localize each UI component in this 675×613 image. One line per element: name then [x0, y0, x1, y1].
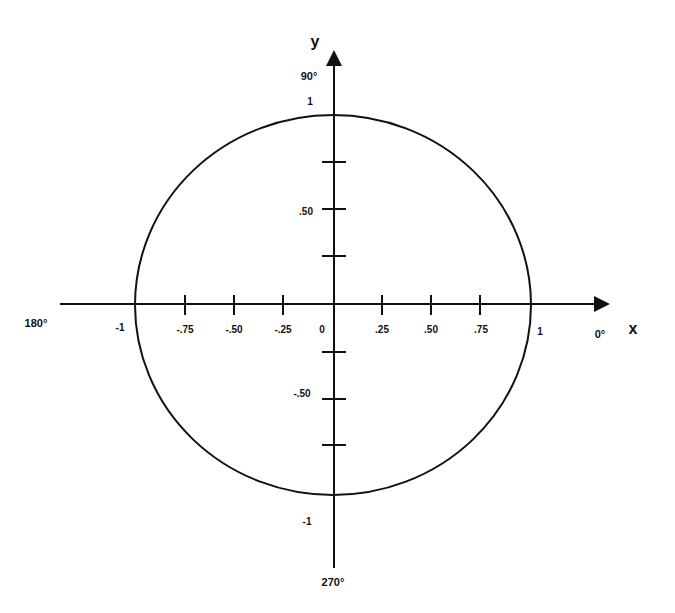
degree-label-270: 270° — [322, 576, 345, 588]
y-tick-label: .50 — [299, 206, 313, 217]
x-tick-label: 1 — [537, 326, 543, 337]
x-tick-label: .50 — [424, 324, 438, 335]
degree-label-90: 90° — [301, 70, 318, 82]
x-axis-arrow-icon — [594, 296, 610, 312]
x-tick-label: 0 — [319, 324, 325, 335]
y-axis-arrow-icon — [326, 50, 342, 66]
degree-label-180: 180° — [25, 317, 48, 329]
x-axis-name: x — [629, 320, 638, 337]
x-tick-label: .25 — [375, 324, 389, 335]
x-tick-label: .75 — [474, 324, 488, 335]
x-tick-label: -.50 — [225, 324, 243, 335]
y-tick-label: 1 — [307, 96, 313, 107]
y-tick-label: -1 — [303, 516, 312, 527]
x-tick-label: -1 — [116, 322, 125, 333]
y-tick-label: -.50 — [293, 388, 311, 399]
unit-circle-diagram: -1 -.75 -.50 -.25 0 .25 .50 .75 1 1 .50 … — [0, 0, 675, 613]
degree-label-0: 0° — [595, 328, 606, 340]
x-tick-label: -.25 — [274, 324, 292, 335]
x-tick-label: -.75 — [176, 324, 194, 335]
y-axis-name: y — [311, 33, 320, 50]
